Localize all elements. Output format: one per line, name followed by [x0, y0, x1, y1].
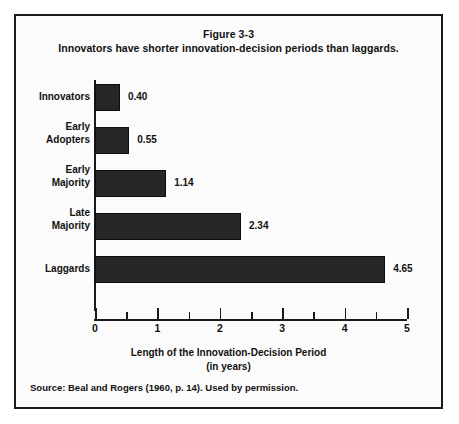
- x-axis-tick-label: 4: [335, 322, 355, 334]
- bar-value-label: 2.34: [249, 220, 268, 231]
- x-axis-major-tick: [345, 308, 347, 319]
- bar-row: EarlyAdopters0.55: [16, 127, 443, 154]
- x-axis-minor-tick: [189, 312, 191, 319]
- x-axis-title-line2: (in years): [16, 360, 441, 374]
- bar-row: EarlyMajority1.14: [16, 170, 443, 197]
- category-label: LateMajority: [14, 207, 90, 232]
- category-label-line2: Majority: [14, 177, 90, 190]
- category-label-line1: Laggards: [14, 263, 90, 276]
- source-note: Source: Beal and Rogers (1960, p. 14). U…: [30, 382, 298, 393]
- x-axis-tick-label: 3: [272, 322, 292, 334]
- bar-value-label: 0.40: [128, 91, 147, 102]
- bar: [95, 84, 120, 111]
- x-axis-minor-tick: [251, 312, 253, 319]
- x-axis-minor-tick: [313, 312, 315, 319]
- category-label: EarlyMajority: [14, 164, 90, 189]
- x-axis-title-line1: Length of the Innovation-Decision Period: [16, 346, 441, 360]
- x-axis-minor-tick: [126, 312, 128, 319]
- category-label-line1: Early: [14, 164, 90, 177]
- bar-row: LateMajority2.34: [16, 213, 443, 240]
- value-axis-line: [94, 319, 407, 321]
- bar-value-label: 4.65: [393, 263, 412, 274]
- x-axis-tick-label: 5: [397, 322, 417, 334]
- bar: [95, 256, 385, 283]
- bar: [95, 170, 166, 197]
- x-axis-title: Length of the Innovation-Decision Period…: [16, 346, 441, 374]
- category-label-line1: Late: [14, 207, 90, 220]
- category-label-line1: Early: [14, 121, 90, 134]
- bar-row: Innovators0.40: [16, 84, 443, 111]
- x-axis-major-tick: [407, 308, 409, 319]
- category-label: EarlyAdopters: [14, 121, 90, 146]
- bar: [95, 127, 129, 154]
- figure-frame: Figure 3-3 Innovators have shorter innov…: [14, 14, 443, 409]
- x-axis-major-tick: [95, 308, 97, 319]
- x-axis-major-tick: [282, 308, 284, 319]
- x-axis-tick-label: 0: [85, 322, 105, 334]
- category-label-line1: Innovators: [14, 91, 90, 104]
- bar-value-label: 0.55: [137, 134, 156, 145]
- bar: [95, 213, 241, 240]
- category-label: Laggards: [14, 263, 90, 276]
- category-label-line2: Majority: [14, 220, 90, 233]
- x-axis-minor-tick: [376, 312, 378, 319]
- bar-row: Laggards4.65: [16, 256, 443, 283]
- category-label: Innovators: [14, 91, 90, 104]
- x-axis-major-tick: [157, 308, 159, 319]
- bar-value-label: 1.14: [174, 177, 193, 188]
- x-axis-tick-label: 1: [147, 322, 167, 334]
- category-label-line2: Adopters: [14, 134, 90, 147]
- x-axis-major-tick: [220, 308, 222, 319]
- x-axis-tick-label: 2: [210, 322, 230, 334]
